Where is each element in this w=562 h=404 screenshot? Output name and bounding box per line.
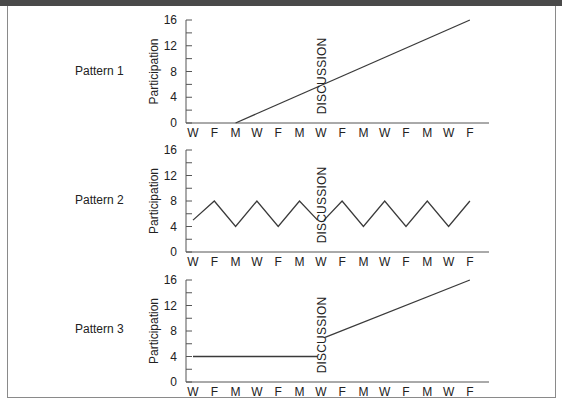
y-axis-title: Participation bbox=[147, 168, 161, 234]
y-tick-label: 16 bbox=[164, 143, 178, 157]
data-line bbox=[193, 201, 318, 227]
pattern-3-panel: Pattern 3 0481216WFMWFMWFMWFMWFParticipa… bbox=[75, 273, 489, 399]
participation-patterns-chart: Pattern 1 0481216WFMWFMWFMWFMWFParticipa… bbox=[0, 0, 562, 404]
discussion-annotation: DISCUSSION bbox=[315, 38, 329, 115]
y-tick-label: 12 bbox=[164, 169, 178, 183]
x-tick-label: W bbox=[443, 255, 455, 269]
x-tick-label: M bbox=[358, 385, 368, 399]
pattern-label: Pattern 2 bbox=[75, 193, 124, 207]
y-axis-title: Participation bbox=[147, 38, 161, 104]
y-tick-label: 12 bbox=[164, 299, 178, 313]
x-tick-label: W bbox=[187, 255, 199, 269]
x-tick-label: W bbox=[187, 126, 199, 140]
y-tick-label: 8 bbox=[170, 194, 177, 208]
pattern-2-panel: Pattern 2 0481216WFMWFMWFMWFMWFParticipa… bbox=[75, 143, 489, 269]
y-tick-label: 4 bbox=[170, 220, 177, 234]
x-tick-label: M bbox=[295, 385, 305, 399]
y-tick-label: 0 bbox=[170, 245, 177, 259]
x-tick-label: M bbox=[422, 385, 432, 399]
x-tick-label: F bbox=[275, 126, 282, 140]
y-tick-label: 8 bbox=[170, 324, 177, 338]
y-tick-label: 12 bbox=[164, 39, 178, 53]
x-tick-label: M bbox=[295, 255, 305, 269]
data-line bbox=[325, 280, 470, 337]
x-tick-label: F bbox=[402, 385, 409, 399]
x-tick-label: M bbox=[295, 126, 305, 140]
pattern-label: Pattern 1 bbox=[75, 64, 124, 78]
y-tick-label: 0 bbox=[170, 375, 177, 389]
data-line bbox=[324, 201, 470, 227]
x-tick-label: W bbox=[379, 255, 391, 269]
discussion-annotation: DISCUSSION bbox=[315, 167, 329, 244]
x-tick-label: M bbox=[422, 126, 432, 140]
x-tick-label: W bbox=[315, 126, 327, 140]
x-tick-label: F bbox=[275, 255, 282, 269]
x-tick-label: W bbox=[443, 385, 455, 399]
x-tick-label: F bbox=[338, 126, 345, 140]
x-tick-label: F bbox=[275, 385, 282, 399]
pattern-label: Pattern 3 bbox=[75, 322, 124, 336]
x-tick-label: W bbox=[379, 385, 391, 399]
x-tick-label: M bbox=[231, 126, 241, 140]
discussion-annotation: DISCUSSION bbox=[315, 297, 329, 374]
x-tick-label: W bbox=[251, 255, 263, 269]
x-tick-label: F bbox=[211, 126, 218, 140]
x-tick-label: F bbox=[211, 385, 218, 399]
x-tick-label: F bbox=[211, 255, 218, 269]
x-tick-label: F bbox=[402, 255, 409, 269]
y-tick-label: 16 bbox=[164, 273, 178, 287]
y-tick-label: 4 bbox=[170, 350, 177, 364]
x-tick-label: W bbox=[251, 126, 263, 140]
data-line bbox=[236, 20, 470, 123]
x-tick-label: F bbox=[466, 255, 473, 269]
y-axis-title: Participation bbox=[147, 298, 161, 364]
x-tick-label: W bbox=[315, 385, 327, 399]
x-tick-label: W bbox=[379, 126, 391, 140]
x-tick-label: W bbox=[315, 255, 327, 269]
x-tick-label: M bbox=[231, 255, 241, 269]
x-tick-label: F bbox=[338, 255, 345, 269]
y-tick-label: 4 bbox=[170, 90, 177, 104]
x-tick-label: M bbox=[231, 385, 241, 399]
x-tick-label: W bbox=[443, 126, 455, 140]
pattern-1-panel: Pattern 1 0481216WFMWFMWFMWFMWFParticipa… bbox=[75, 13, 489, 140]
x-tick-label: F bbox=[402, 126, 409, 140]
y-tick-label: 0 bbox=[170, 116, 177, 130]
y-tick-label: 16 bbox=[164, 13, 178, 27]
x-tick-label: M bbox=[422, 255, 432, 269]
x-tick-label: M bbox=[358, 255, 368, 269]
y-tick-label: 8 bbox=[170, 65, 177, 79]
x-tick-label: F bbox=[466, 385, 473, 399]
x-tick-label: M bbox=[358, 126, 368, 140]
x-tick-label: F bbox=[338, 385, 345, 399]
x-tick-label: W bbox=[187, 385, 199, 399]
x-tick-label: W bbox=[251, 385, 263, 399]
x-tick-label: F bbox=[466, 126, 473, 140]
